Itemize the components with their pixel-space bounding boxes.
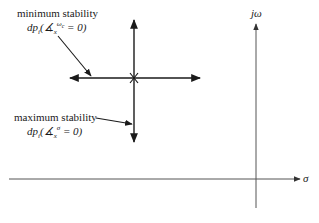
minimum-stability-formula: dpi(∡xωc = 0) bbox=[27, 21, 86, 36]
angle-symbol-icon: ∡ bbox=[44, 21, 54, 33]
maximum-stability-title: maximum stability bbox=[14, 112, 97, 123]
s-plane-diagram: jω σ minimum stability dpi(∡xωc = 0) max… bbox=[0, 0, 319, 223]
maximum-stability-leader bbox=[96, 118, 132, 124]
formula-tail: = 0) bbox=[60, 125, 82, 137]
formula-symbol-sub: x bbox=[54, 28, 57, 36]
formula-tail: = 0) bbox=[64, 21, 86, 33]
real-axis-label: σ bbox=[303, 173, 308, 184]
angle-symbol-icon: ∡ bbox=[44, 125, 54, 137]
minimum-stability-leader bbox=[58, 36, 91, 76]
formula-dp: dp bbox=[27, 125, 38, 137]
formula-symbol-sub: x bbox=[54, 132, 57, 140]
sensitivity-cross bbox=[70, 20, 200, 142]
formula-dp: dp bbox=[27, 21, 38, 33]
maximum-stability-formula: dpi(∡xσ = 0) bbox=[27, 125, 82, 140]
imaginary-axis-label: jω bbox=[251, 8, 262, 19]
minimum-stability-title: minimum stability bbox=[17, 8, 98, 19]
